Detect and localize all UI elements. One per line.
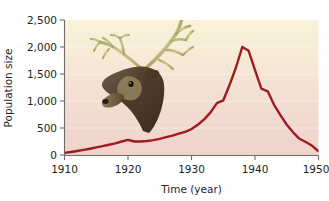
x-tick-label: 1950 <box>303 163 329 175</box>
y-tick-label: 2,000 <box>27 41 57 53</box>
x-axis-ticks <box>65 156 319 161</box>
population-line-chart: 2,500 2,000 1,500 1,000 500 0 1910 1920 … <box>0 0 329 201</box>
plot-area <box>65 20 319 155</box>
plot-background <box>65 20 319 155</box>
y-tick-label: 1,500 <box>27 68 57 80</box>
y-tick-label: 0 <box>50 149 57 161</box>
x-tick-label: 1940 <box>242 163 269 175</box>
y-tick-label: 2,500 <box>27 14 57 26</box>
x-axis-tick-labels: 1910 1920 1930 1940 1950 <box>51 163 329 175</box>
y-axis-tick-labels: 2,500 2,000 1,500 1,000 500 0 <box>27 14 57 161</box>
y-axis-ticks <box>60 20 65 155</box>
reindeer-eye-highlight <box>129 82 131 84</box>
reindeer-eye <box>128 81 133 87</box>
y-axis-title: Population size <box>2 49 14 128</box>
x-tick-label: 1930 <box>178 163 205 175</box>
x-tick-label: 1920 <box>115 163 142 175</box>
y-tick-label: 500 <box>37 122 57 134</box>
chart-figure: 2,500 2,000 1,500 1,000 500 0 1910 1920 … <box>0 0 329 201</box>
reindeer-nose <box>102 99 108 104</box>
x-axis-title: Time (year) <box>160 183 222 195</box>
x-tick-label: 1910 <box>51 163 78 175</box>
y-tick-label: 1,000 <box>27 95 57 107</box>
